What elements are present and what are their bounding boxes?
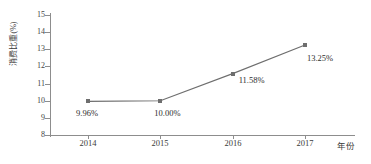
y-tick-label: 15	[19, 11, 45, 19]
x-tick-label-2017: 2017	[285, 139, 325, 148]
x-axis-line	[50, 135, 355, 136]
y-axis-line	[50, 13, 51, 137]
data-point-label-2015: 10.00%	[154, 109, 180, 118]
data-point-label-2017: 13.25%	[307, 54, 333, 63]
y-tick-label: 14	[19, 28, 45, 36]
data-point-label-2014: 9.96%	[76, 109, 98, 118]
y-tick-label: 9	[19, 114, 45, 122]
line-chart: 消费比重(%) 15 14 13 12 11 10 9 8 2014 2015 …	[0, 0, 371, 164]
x-tick-label-2015: 2015	[140, 139, 180, 148]
y-tick-label: 13	[19, 45, 45, 53]
data-point-marker	[303, 43, 307, 47]
x-axis-title: 年份	[337, 139, 355, 151]
y-tick-label: 12	[19, 62, 45, 70]
x-tick-label-2016: 2016	[213, 139, 253, 148]
y-axis-title: 消费比重(%)	[7, 0, 18, 92]
x-tick-label-2014: 2014	[68, 139, 108, 148]
data-point-label-2016: 11.58%	[239, 76, 265, 85]
y-tick-label: 10	[19, 97, 45, 105]
y-tick-label: 11	[19, 80, 45, 88]
data-point-marker	[86, 99, 90, 103]
data-point-marker	[231, 72, 235, 76]
data-point-marker	[158, 99, 162, 103]
y-tick-label: 8	[19, 131, 45, 139]
